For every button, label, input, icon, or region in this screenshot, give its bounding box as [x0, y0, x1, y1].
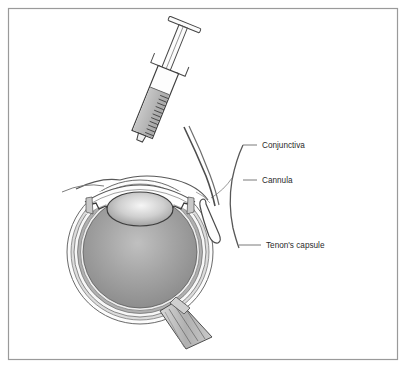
eye-anatomy-diagram: Conjunctiva Cannula Tenon's capsule [0, 0, 407, 369]
lens [107, 192, 173, 226]
label-tenons-capsule: Tenon's capsule [266, 241, 325, 250]
limbus-left [86, 197, 93, 214]
limbus-right [187, 197, 194, 214]
label-conjunctiva: Conjunctiva [262, 141, 305, 150]
canvas-background [0, 0, 407, 369]
label-cannula: Cannula [262, 176, 293, 185]
figure-panel: Conjunctiva Cannula Tenon's capsule [0, 0, 407, 369]
